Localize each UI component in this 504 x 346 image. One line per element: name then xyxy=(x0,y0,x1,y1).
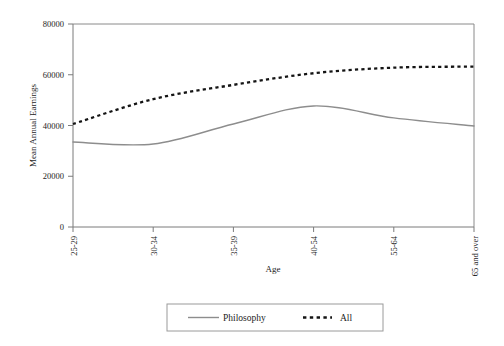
x-tick-label-55-64: 55-64 xyxy=(389,235,399,256)
x-axis-title: Age xyxy=(266,264,281,274)
x-tick-label-65-and-over: 65 and over xyxy=(470,236,480,276)
y-axis-ticks xyxy=(68,24,73,227)
y-axis-tick-labels: 80000 60000 40000 20000 0 xyxy=(43,19,64,232)
y-tick-label-80000: 80000 xyxy=(43,19,64,29)
x-tick-label-35-39: 35-39 xyxy=(229,236,239,256)
line-chart: 80000 60000 40000 20000 0 Mean Annual Ea… xyxy=(0,0,504,346)
y-tick-label-60000: 60000 xyxy=(43,70,64,80)
legend-label-all: All xyxy=(340,313,353,323)
y-axis-title: Mean Annual Earnings xyxy=(28,84,38,167)
chart-legend: Philosophy All xyxy=(167,304,383,331)
y-tick-label-40000: 40000 xyxy=(43,121,64,131)
x-tick-label-40-54: 40-54 xyxy=(309,235,319,256)
y-tick-label-20000: 20000 xyxy=(43,171,64,181)
plot-area-background xyxy=(73,24,474,227)
chart-figure: 80000 60000 40000 20000 0 Mean Annual Ea… xyxy=(0,0,504,346)
y-tick-label-0: 0 xyxy=(60,222,64,232)
x-tick-label-30-34: 30-34 xyxy=(149,235,159,256)
legend-label-philosophy: Philosophy xyxy=(223,313,266,323)
x-axis-ticks xyxy=(73,227,474,232)
x-tick-label-25-29: 25-29 xyxy=(69,236,79,256)
